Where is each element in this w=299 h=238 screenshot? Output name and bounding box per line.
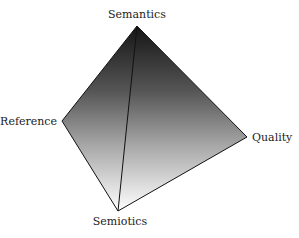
label-semiotics: Semiotics xyxy=(93,215,148,228)
label-reference: Reference xyxy=(0,115,57,128)
diagram-canvas: Semantics Reference Quality Semiotics xyxy=(0,0,299,238)
tetrahedron-diagram: Semantics Reference Quality Semiotics xyxy=(0,0,299,238)
label-semantics: Semantics xyxy=(108,8,166,21)
tetrahedron-face xyxy=(62,26,247,211)
label-quality: Quality xyxy=(252,131,293,144)
